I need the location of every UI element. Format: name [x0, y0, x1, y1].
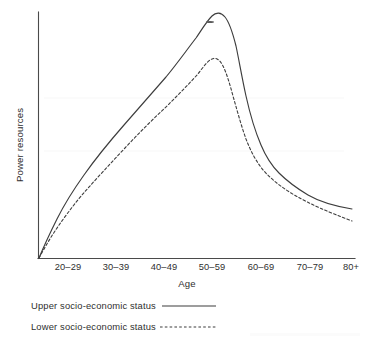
x-tick-label-4: 60–69: [248, 262, 275, 272]
series-line-upper-socio-economic-status: [39, 13, 352, 258]
legend-item-lower-socio-economic-status: Lower socio-economic status: [31, 321, 216, 332]
figure-container: 20–29 30–39 40–49 50–59 60–69 70–79 80+ …: [0, 0, 370, 344]
ink-speck-artifact: [206, 21, 214, 23]
legend: Upper socio-economic status Lower socio-…: [31, 300, 216, 332]
x-tick-label-5: 70–79: [297, 262, 324, 272]
x-tick-labels: 20–29 30–39 40–49 50–59 60–69 70–79 80+: [55, 262, 359, 272]
x-tick-label-3: 50–59: [199, 262, 226, 272]
x-tick-label-6: 80+: [343, 262, 359, 272]
legend-label-lower: Lower socio-economic status: [31, 321, 156, 332]
legend-item-upper-socio-economic-status: Upper socio-economic status: [31, 300, 216, 311]
series-group: [39, 13, 352, 258]
line-chart: 20–29 30–39 40–49 50–59 60–69 70–79 80+ …: [0, 0, 370, 344]
y-axis-title: Power resources: [14, 108, 25, 182]
x-tick-label-1: 30–39: [103, 262, 130, 272]
axes-group: [38, 12, 355, 259]
legend-label-upper: Upper socio-economic status: [31, 300, 156, 311]
x-tick-label-2: 40–49: [151, 262, 178, 272]
x-tick-label-0: 20–29: [55, 262, 82, 272]
series-line-lower-socio-economic-status: [39, 58, 352, 258]
x-axis-title: Age: [178, 278, 196, 289]
